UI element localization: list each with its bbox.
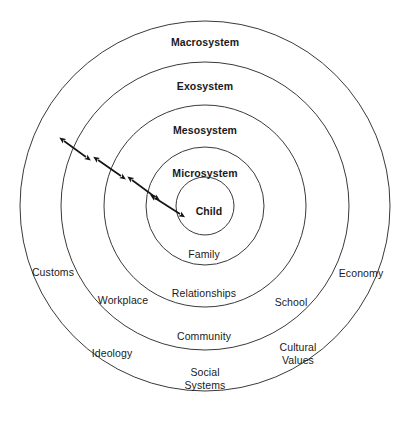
mesosystem-microsystem-arrow: [132, 180, 155, 197]
term-cultural-values: Cultural Values: [280, 341, 317, 367]
term-family: Family: [188, 249, 220, 260]
ecological-systems-diagram: Macrosystem Exosystem Mesosystem Microsy…: [0, 0, 407, 422]
ring-label-child: Child: [196, 206, 223, 217]
term-relationships: Relationships: [172, 288, 236, 299]
term-workplace: Workplace: [98, 295, 148, 306]
term-social-systems: Social Systems: [185, 366, 226, 392]
ring-label-microsystem: Microsystem: [172, 168, 237, 179]
ring-label-mesosystem: Mesosystem: [173, 125, 237, 136]
term-ideology: Ideology: [92, 348, 133, 359]
term-customs: Customs: [32, 267, 74, 278]
term-community: Community: [177, 331, 231, 342]
ring-label-macrosystem: Macrosystem: [171, 37, 239, 48]
term-economy: Economy: [339, 268, 383, 279]
term-school: School: [275, 297, 308, 308]
interaction-arrows: [64, 141, 180, 214]
ring-label-exosystem: Exosystem: [177, 81, 233, 92]
